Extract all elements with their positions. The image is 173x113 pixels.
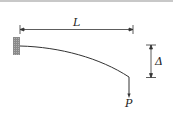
fixed-support-wall [13,37,20,55]
deflected-beam [20,46,129,77]
length-label: L [73,17,80,28]
beam-diagram [0,0,173,113]
deflection-label: Δ [155,56,163,67]
load-arrow [127,77,130,98]
load-label: P [125,98,132,109]
